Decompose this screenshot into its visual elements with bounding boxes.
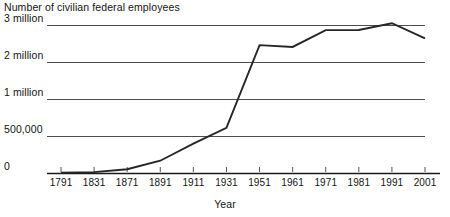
x-axis-title: Year [0, 198, 450, 210]
y-axis-tick-label: 0 [4, 161, 10, 172]
data-series-line [61, 23, 425, 172]
x-axis-tick-label: 2001 [405, 177, 445, 188]
y-axis-tick-label: 2 million [4, 50, 43, 61]
chart-container: Number of civilian federal employees 050… [0, 0, 450, 217]
gridlines [47, 26, 425, 137]
y-axis-tick-label: 500,000 [4, 124, 43, 135]
y-axis-tick-label: 3 million [4, 13, 43, 24]
y-axis-tick-label: 1 million [4, 87, 43, 98]
